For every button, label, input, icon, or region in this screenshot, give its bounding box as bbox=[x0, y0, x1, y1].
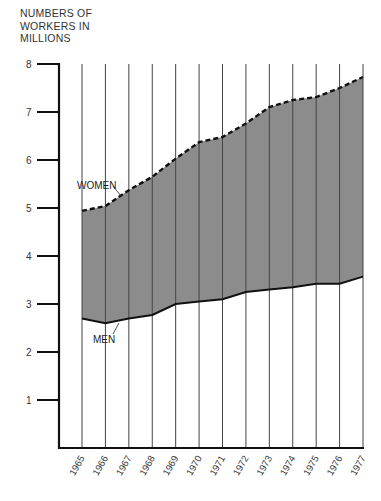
x-tick-label: 1965 bbox=[67, 454, 87, 478]
women-label: WOMEN bbox=[77, 180, 116, 191]
women-leader-line bbox=[113, 186, 121, 196]
x-tick-label: 1966 bbox=[90, 454, 110, 478]
area-chart: 12345678 1965196619671968196919701971197… bbox=[0, 0, 381, 501]
men-label: MEN bbox=[93, 334, 115, 345]
x-tick-label: 1968 bbox=[137, 454, 157, 478]
y-tick-label: 7 bbox=[26, 107, 32, 118]
y-tick-label: 6 bbox=[26, 155, 32, 166]
x-tick-label: 1973 bbox=[254, 454, 274, 478]
x-tick-label: 1967 bbox=[113, 454, 133, 478]
y-tick-label: 3 bbox=[26, 299, 32, 310]
y-tick-label: 1 bbox=[26, 395, 32, 406]
x-tick-label: 1972 bbox=[231, 454, 251, 478]
x-tick-label: 1971 bbox=[207, 454, 227, 478]
x-tick-label: 1977 bbox=[348, 454, 368, 478]
y-tick-label: 8 bbox=[26, 59, 32, 70]
x-tick-label: 1976 bbox=[324, 454, 344, 478]
men-leader-line bbox=[113, 323, 119, 334]
x-tick-label: 1970 bbox=[184, 454, 204, 478]
x-tick-label: 1975 bbox=[301, 454, 321, 478]
y-tick-label: 2 bbox=[26, 347, 32, 358]
x-tick-label: 1969 bbox=[160, 454, 180, 478]
y-axis-ticks: 12345678 bbox=[26, 59, 59, 406]
x-tick-label: 1974 bbox=[277, 454, 297, 478]
y-tick-label: 4 bbox=[26, 251, 32, 262]
x-axis-labels: 1965196619671968196919701971197219731974… bbox=[67, 454, 368, 478]
y-tick-label: 5 bbox=[26, 203, 32, 214]
